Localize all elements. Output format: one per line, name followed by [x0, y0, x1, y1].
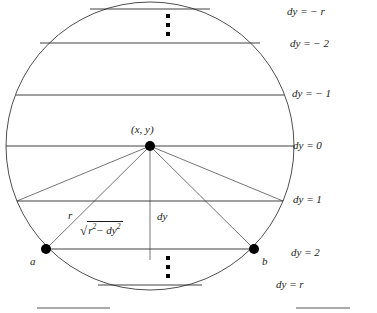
- point-a-marker: [41, 244, 51, 254]
- chord-label-dy-minus-1: dy = − 1: [292, 88, 331, 99]
- radius-label: r: [68, 210, 72, 221]
- chord-label-dy-minus-2: dy = − 2: [290, 38, 329, 49]
- ray-to-dy1-right: [150, 146, 283, 201]
- ellipsis-top-dot-1: [166, 14, 170, 18]
- ellipsis-top-dot-3: [166, 32, 170, 36]
- point-a-label: a: [30, 256, 36, 267]
- radicand-term-dy: dy: [106, 224, 116, 236]
- point-b-label: b: [262, 256, 268, 267]
- center-point-marker: [145, 141, 155, 151]
- point-b-marker: [249, 244, 259, 254]
- ray-to-dy1-left: [17, 146, 150, 201]
- radicand-minus: −: [96, 224, 103, 236]
- dy-segment-label: dy: [157, 211, 167, 222]
- chord-label-dy-1: dy = 1: [293, 194, 322, 205]
- chord-label-dy-minus-r: dy = − r: [287, 6, 325, 17]
- radicand: r2− dy2: [87, 221, 122, 236]
- ellipsis-top-dot-2: [166, 23, 170, 27]
- chord-half-length-label: √r2− dy2: [80, 221, 123, 237]
- chord-label-dy-2: dy = 2: [291, 247, 320, 258]
- center-point-label: (x, y): [131, 124, 154, 135]
- ray-radius-to-b: [150, 146, 254, 249]
- figure-container: dy = − r dy = − 2 dy = − 1 dy = 0 dy = 1…: [0, 0, 377, 313]
- radicand-exp-dy: 2: [117, 222, 121, 231]
- chord-label-dy-r: dy = r: [276, 279, 304, 290]
- ellipsis-bottom-dot-2: [166, 265, 170, 269]
- ellipsis-bottom-dot-1: [166, 256, 170, 260]
- ellipsis-bottom-dot-3: [166, 274, 170, 278]
- sqrt-icon: √: [80, 224, 87, 237]
- chord-label-dy-0: dy = 0: [293, 140, 322, 151]
